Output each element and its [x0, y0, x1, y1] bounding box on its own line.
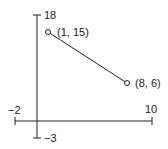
point-2 [125, 81, 130, 86]
x-max-label: 10 [145, 103, 157, 115]
point-1 [46, 30, 51, 35]
y-max-label: 18 [44, 9, 56, 21]
annotation-point-1: (1, 15) [57, 26, 89, 38]
segment-line [48, 32, 127, 83]
x-min-label: −2 [8, 104, 21, 116]
chart: 18 −3 −2 10 (1, 15) (8, 6) [0, 0, 168, 149]
annotation-point-2: (8, 6) [135, 77, 161, 89]
y-min-label: −3 [44, 132, 57, 144]
